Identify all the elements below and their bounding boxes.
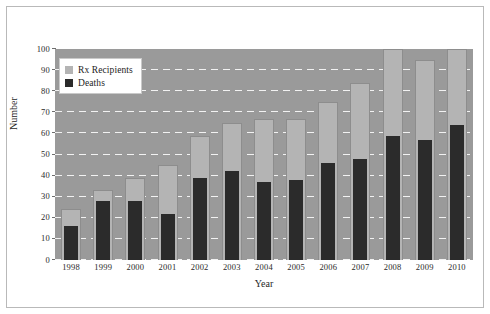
- x-tick-label: 2005: [280, 263, 312, 272]
- x-tick-label: 1998: [55, 263, 87, 272]
- y-tick-label: 50: [24, 150, 50, 159]
- y-tick-label: 70: [24, 108, 50, 117]
- bar-deaths: [257, 182, 271, 260]
- x-tick-label: 2006: [312, 263, 344, 272]
- x-tick-label: 2009: [409, 263, 441, 272]
- chart-legend: Rx Recipients Deaths: [59, 58, 142, 94]
- y-tick-label: 0: [24, 256, 50, 265]
- bar-deaths: [386, 136, 400, 260]
- legend-item-deaths: Deaths: [65, 76, 133, 89]
- bar-deaths: [353, 159, 367, 260]
- x-axis-tick-labels: 1998199920002001200220032004200520062007…: [55, 263, 473, 277]
- chart-figure: Number 0102030405060708090100 Rx Recipie…: [0, 0, 490, 314]
- y-tick-label: 20: [24, 213, 50, 222]
- bar-deaths: [128, 201, 142, 260]
- legend-swatch-rx-recipients: [65, 66, 73, 74]
- y-tick-label: 60: [24, 129, 50, 138]
- x-tick-label: 2000: [119, 263, 151, 272]
- x-tick-label: 2003: [216, 263, 248, 272]
- legend-swatch-deaths: [65, 79, 73, 87]
- legend-item-rx-recipients: Rx Recipients: [65, 63, 133, 76]
- x-tick-label: 2002: [184, 263, 216, 272]
- y-tick-label: 30: [24, 192, 50, 201]
- y-tick-label: 90: [24, 66, 50, 75]
- bar-deaths: [418, 140, 432, 260]
- bar-deaths: [161, 214, 175, 260]
- x-tick-label: 2001: [151, 263, 183, 272]
- bar-deaths: [64, 226, 78, 260]
- y-tick-label: 100: [24, 45, 50, 54]
- x-tick-label: 2010: [441, 263, 473, 272]
- bar-deaths: [96, 201, 110, 260]
- x-tick-label: 1999: [87, 263, 119, 272]
- bar-deaths: [321, 163, 335, 260]
- bar-deaths: [450, 125, 464, 260]
- y-tick-label: 40: [24, 171, 50, 180]
- y-axis-title: Number: [8, 97, 19, 130]
- y-tick-label: 10: [24, 234, 50, 243]
- x-tick-label: 2008: [377, 263, 409, 272]
- bar-deaths: [289, 180, 303, 260]
- x-axis-title: Year: [55, 278, 473, 289]
- bar-deaths: [193, 178, 207, 260]
- x-tick-label: 2004: [248, 263, 280, 272]
- bar-deaths: [225, 171, 239, 260]
- x-tick-label: 2007: [344, 263, 376, 272]
- y-tick-label: 80: [24, 87, 50, 96]
- legend-label-deaths: Deaths: [78, 78, 105, 88]
- y-axis-tick-labels: 0102030405060708090100: [22, 49, 50, 260]
- legend-label-rx-recipients: Rx Recipients: [78, 65, 133, 75]
